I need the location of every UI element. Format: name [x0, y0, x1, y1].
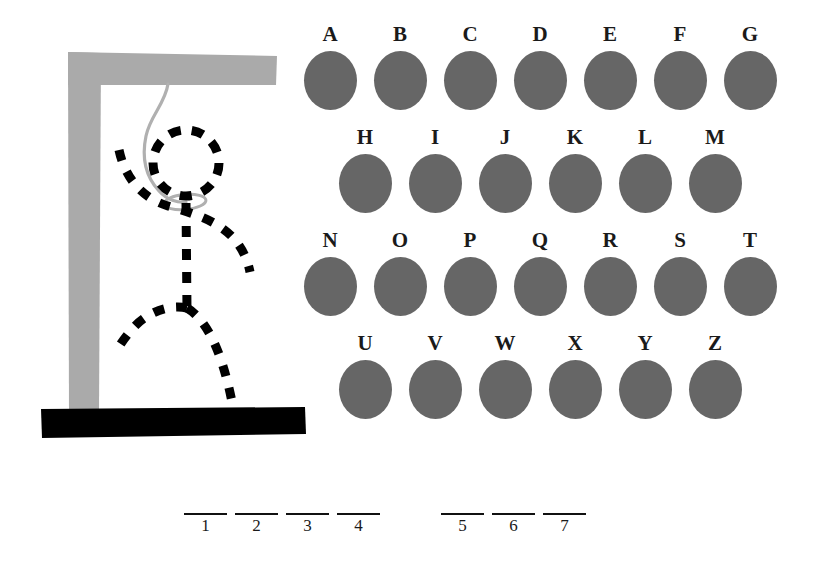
- letter-label: S: [645, 228, 715, 253]
- letter-label: P: [435, 228, 505, 253]
- letter-disc-y[interactable]: [619, 360, 672, 419]
- blank-number: 2: [231, 516, 282, 536]
- letter-label: T: [715, 228, 785, 253]
- letter-label: R: [575, 228, 645, 253]
- figure-head: [153, 130, 219, 196]
- letter-disc-a[interactable]: [304, 51, 357, 110]
- letter-disc-r[interactable]: [584, 257, 637, 316]
- gallows-post-shape: [68, 52, 101, 415]
- blank-underline: [286, 513, 329, 515]
- letter-label: C: [435, 22, 505, 47]
- letter-disc-m[interactable]: [689, 154, 742, 213]
- letter-disc-n[interactable]: [304, 257, 357, 316]
- letter-disc-f[interactable]: [654, 51, 707, 110]
- letter-disc-c[interactable]: [444, 51, 497, 110]
- blank-number: 6: [488, 516, 539, 536]
- letter-button-w[interactable]: W: [470, 331, 540, 419]
- blank-slot-3[interactable]: 3: [282, 500, 333, 536]
- letter-disc-b[interactable]: [374, 51, 427, 110]
- letter-button-s[interactable]: S: [645, 228, 715, 316]
- letter-label: L: [610, 125, 680, 150]
- letter-button-j[interactable]: J: [470, 125, 540, 213]
- letter-label: J: [470, 125, 540, 150]
- letter-button-g[interactable]: G: [715, 22, 785, 110]
- letter-disc-l[interactable]: [619, 154, 672, 213]
- word-blank-group: 1234: [180, 500, 384, 536]
- gallows-crossbeam-shape: [68, 52, 277, 85]
- letter-disc-g[interactable]: [724, 51, 777, 110]
- blank-slot-2[interactable]: 2: [231, 500, 282, 536]
- blank-slot-7[interactable]: 7: [539, 500, 590, 536]
- letter-button-r[interactable]: R: [575, 228, 645, 316]
- word-blank-group: 567: [437, 500, 590, 536]
- letter-button-f[interactable]: F: [645, 22, 715, 110]
- blank-slot-1[interactable]: 1: [180, 500, 231, 536]
- letter-label: U: [330, 331, 400, 356]
- letter-button-c[interactable]: C: [435, 22, 505, 110]
- letter-label: G: [715, 22, 785, 47]
- letter-label: V: [400, 331, 470, 356]
- letter-row: UVWXYZ: [295, 331, 828, 434]
- blank-underline: [337, 513, 380, 515]
- letter-bank: ABCDEFGHIJKLMNOPQRSTUVWXYZ: [295, 22, 828, 452]
- letter-label: F: [645, 22, 715, 47]
- blank-slot-6[interactable]: 6: [488, 500, 539, 536]
- letter-button-z[interactable]: Z: [680, 331, 750, 419]
- blank-slot-4[interactable]: 4: [333, 500, 384, 536]
- blank-number: 5: [437, 516, 488, 536]
- letter-disc-i[interactable]: [409, 154, 462, 213]
- word-blanks: 1234567: [180, 500, 650, 552]
- letter-button-v[interactable]: V: [400, 331, 470, 419]
- letter-label: W: [470, 331, 540, 356]
- letter-label: M: [680, 125, 750, 150]
- letter-label: D: [505, 22, 575, 47]
- letter-label: I: [400, 125, 470, 150]
- letter-disc-v[interactable]: [409, 360, 462, 419]
- figure-left-leg: [117, 307, 187, 350]
- letter-button-d[interactable]: D: [505, 22, 575, 110]
- letter-label: N: [295, 228, 365, 253]
- letter-disc-e[interactable]: [584, 51, 637, 110]
- letter-button-x[interactable]: X: [540, 331, 610, 419]
- letter-row: NOPQRST: [295, 228, 828, 331]
- letter-button-a[interactable]: A: [295, 22, 365, 110]
- letter-button-y[interactable]: Y: [610, 331, 680, 419]
- letter-disc-o[interactable]: [374, 257, 427, 316]
- letter-button-t[interactable]: T: [715, 228, 785, 316]
- letter-button-n[interactable]: N: [295, 228, 365, 316]
- blank-underline: [492, 513, 535, 515]
- letter-row: HIJKLM: [295, 125, 828, 228]
- letter-disc-w[interactable]: [479, 360, 532, 419]
- letter-label: X: [540, 331, 610, 356]
- letter-button-h[interactable]: H: [330, 125, 400, 213]
- letter-disc-p[interactable]: [444, 257, 497, 316]
- letter-button-i[interactable]: I: [400, 125, 470, 213]
- letter-button-b[interactable]: B: [365, 22, 435, 110]
- blank-slot-5[interactable]: 5: [437, 500, 488, 536]
- letter-disc-h[interactable]: [339, 154, 392, 213]
- letter-disc-t[interactable]: [724, 257, 777, 316]
- letter-button-l[interactable]: L: [610, 125, 680, 213]
- letter-disc-j[interactable]: [479, 154, 532, 213]
- letter-disc-x[interactable]: [549, 360, 602, 419]
- letter-row: ABCDEFG: [295, 22, 828, 125]
- letter-label: H: [330, 125, 400, 150]
- letter-button-k[interactable]: K: [540, 125, 610, 213]
- letter-disc-u[interactable]: [339, 360, 392, 419]
- letter-disc-d[interactable]: [514, 51, 567, 110]
- letter-label: E: [575, 22, 645, 47]
- letter-button-o[interactable]: O: [365, 228, 435, 316]
- letter-button-q[interactable]: Q: [505, 228, 575, 316]
- letter-button-p[interactable]: P: [435, 228, 505, 316]
- letter-disc-z[interactable]: [689, 360, 742, 419]
- blank-number: 1: [180, 516, 231, 536]
- letter-label: O: [365, 228, 435, 253]
- letter-label: A: [295, 22, 365, 47]
- letter-disc-q[interactable]: [514, 257, 567, 316]
- letter-disc-s[interactable]: [654, 257, 707, 316]
- letter-label: Z: [680, 331, 750, 356]
- letter-button-m[interactable]: M: [680, 125, 750, 213]
- letter-disc-k[interactable]: [549, 154, 602, 213]
- letter-button-e[interactable]: E: [575, 22, 645, 110]
- letter-button-u[interactable]: U: [330, 331, 400, 419]
